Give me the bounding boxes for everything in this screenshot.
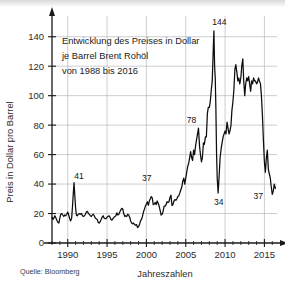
y-tick-label: 0: [39, 237, 44, 248]
y-tick-label: 80: [33, 120, 44, 131]
chart-title-line-2: je Barrel Brent Rohöl: [61, 51, 148, 61]
chart-title-line-1: Entwicklung des Preises in Dollar: [62, 36, 199, 46]
annotation-label: 37: [142, 173, 152, 183]
x-tick-label: 1990: [57, 249, 78, 260]
y-tick-label: 140: [28, 31, 44, 42]
annotation-label: 78: [187, 115, 197, 125]
y-tick-label: 40: [33, 178, 44, 189]
annotation-label: 41: [74, 171, 84, 181]
x-tick-label: 2005: [175, 249, 196, 260]
y-tick-label: 120: [28, 61, 44, 72]
y-axis-arrow-icon: [49, 7, 55, 16]
x-tick-label: 1995: [96, 249, 117, 260]
x-axis-title: Jahreszahlen: [137, 269, 192, 279]
chart-title-line-3: von 1988 bis 2016: [62, 66, 138, 76]
y-tick-labels: 020406080100120140: [28, 31, 44, 248]
brent-oil-price-chart-figure: 020406080100120140 199019952000200520102…: [0, 0, 285, 291]
x-tick-label: 2000: [136, 249, 157, 260]
annotation-label: 144: [212, 17, 226, 27]
source-caption: Quelle: Bloomberg: [20, 267, 80, 276]
y-tick-label: 20: [33, 208, 44, 219]
x-tick-label: 2010: [215, 249, 236, 260]
x-tick-labels: 199019952000200520102015: [57, 249, 275, 260]
chart-canvas: 020406080100120140 199019952000200520102…: [0, 0, 285, 291]
x-tick-label: 2015: [254, 249, 275, 260]
x-axis-arrow-icon: [280, 240, 285, 246]
annotation-label: 34: [214, 197, 224, 207]
annotation-label: 37: [254, 191, 264, 201]
y-axis-title: Preis in Dollar pro Barrel: [5, 101, 15, 202]
y-tick-label: 100: [28, 90, 44, 101]
y-tick-label: 60: [33, 149, 44, 160]
